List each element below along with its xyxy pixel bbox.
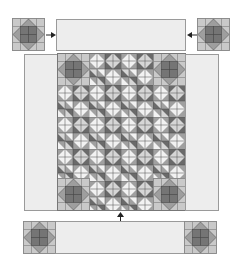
- top-left-corner-block: [12, 18, 45, 51]
- square-in-square-block-icon: [197, 18, 230, 51]
- square-in-square-block-icon: [184, 221, 217, 254]
- top-border-strip: [56, 19, 186, 51]
- right-side-border: [185, 54, 219, 211]
- center-quilt: [57, 53, 186, 211]
- square-in-square-block-icon: [12, 18, 45, 51]
- square-in-square-block-icon: [23, 221, 56, 254]
- bottom-left-corner-block: [23, 221, 56, 254]
- arrow-left-icon: [187, 32, 197, 38]
- left-side-border: [24, 54, 58, 211]
- bottom-right-corner-block: [184, 221, 217, 254]
- quilt-pattern: [57, 53, 186, 211]
- top-right-corner-block: [197, 18, 230, 51]
- arrow-right-icon: [46, 32, 56, 38]
